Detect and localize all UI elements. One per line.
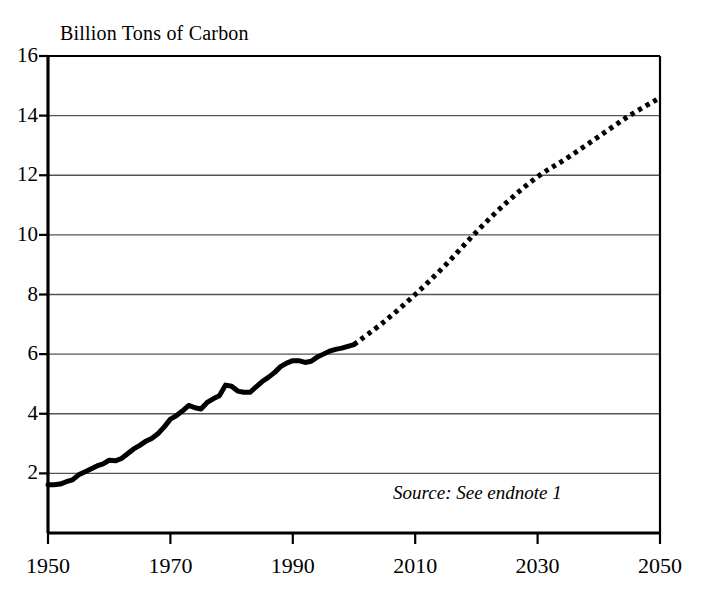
chart-figure: Billion Tons of Carbon 161412108642 1950… [0, 0, 707, 603]
x-tick-label: 1950 [3, 555, 93, 577]
x-tick-label: 2010 [370, 555, 460, 577]
historical-line [48, 345, 354, 485]
x-tick-label: 2050 [615, 555, 705, 577]
projection-line [354, 98, 660, 345]
axis-ticks-group [39, 56, 660, 544]
y-tick-label: 14 [0, 105, 38, 126]
gridlines-group [48, 116, 660, 474]
y-tick-label: 8 [0, 284, 38, 305]
chart-plot-area [0, 0, 707, 603]
y-tick-label: 12 [0, 164, 38, 185]
y-tick-label: 4 [0, 403, 38, 424]
y-tick-label: 10 [0, 224, 38, 245]
data-series-group [48, 98, 660, 485]
y-tick-label: 2 [0, 462, 38, 483]
y-tick-label: 16 [0, 45, 38, 66]
source-note: Source: See endnote 1 [393, 482, 562, 504]
x-tick-label: 1990 [248, 555, 338, 577]
y-tick-label: 6 [0, 343, 38, 364]
x-tick-label: 1970 [125, 555, 215, 577]
x-tick-label: 2030 [493, 555, 583, 577]
